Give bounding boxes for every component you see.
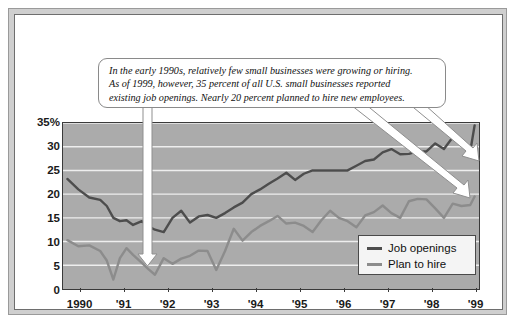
x-axis-tick-label: 1990 — [67, 298, 93, 310]
x-axis-tick-label: '99 — [468, 298, 484, 310]
legend-item: Job openings — [367, 240, 475, 256]
y-axis-tick-label: 20 — [47, 188, 60, 200]
legend-color-swatch — [367, 263, 382, 266]
y-axis: 05101520253035% — [14, 112, 60, 300]
y-axis-tick-label: 5 — [54, 260, 60, 272]
x-axis-tick-mark — [344, 288, 345, 292]
x-axis-tick-label: '93 — [204, 298, 220, 310]
y-axis-tick-label: 25 — [47, 164, 60, 176]
callout-line-2: As of 1999, however, 35 percent of all U… — [109, 77, 436, 90]
callout-box: In the early 1990s, relatively few small… — [98, 58, 446, 108]
x-axis-tick-mark — [256, 288, 257, 292]
x-axis-tick-label: '92 — [160, 298, 176, 310]
y-axis-tick-label: 30 — [47, 140, 60, 152]
x-axis-tick-label: '91 — [116, 298, 132, 310]
legend-item: Plan to hire — [367, 256, 475, 272]
chart-figure: 05101520253035% 1990'91'92'93'94'95'96'9… — [0, 0, 517, 325]
x-axis-tick-mark — [80, 288, 81, 292]
x-axis-tick-label: '98 — [424, 298, 440, 310]
y-axis-tick-label: 15 — [47, 212, 60, 224]
x-axis-tick-mark — [168, 288, 169, 292]
x-axis-tick-mark — [476, 288, 477, 292]
legend-item-label: Job openings — [388, 242, 456, 254]
callout-line-3: existing job openings. Nearly 20 percent… — [109, 91, 436, 104]
chart-legend: Job openingsPlan to hire — [358, 235, 476, 275]
legend-item-label: Plan to hire — [388, 258, 446, 270]
x-axis-tick-mark — [300, 288, 301, 292]
y-axis-tick-label: 10 — [47, 236, 60, 248]
x-axis-tick-label: '94 — [248, 298, 264, 310]
x-axis: 1990'91'92'93'94'95'96'97'98'99 — [62, 292, 482, 316]
legend-color-swatch — [367, 247, 382, 250]
x-axis-tick-mark — [124, 288, 125, 292]
x-axis-tick-mark — [388, 288, 389, 292]
y-axis-tick-label: 0 — [54, 284, 60, 296]
y-axis-tick-label: 35% — [37, 116, 60, 128]
x-axis-tick-label: '97 — [380, 298, 396, 310]
x-axis-tick-mark — [212, 288, 213, 292]
series-line — [67, 125, 474, 232]
x-axis-tick-label: '95 — [292, 298, 308, 310]
x-axis-tick-label: '96 — [336, 298, 352, 310]
callout-line-1: In the early 1990s, relatively few small… — [109, 64, 436, 77]
x-axis-tick-mark — [432, 288, 433, 292]
